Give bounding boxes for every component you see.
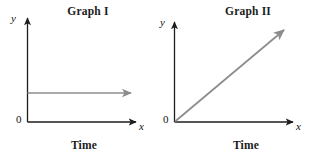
x-axis-caption: Time xyxy=(0,139,158,151)
x-axis-label: x xyxy=(139,120,144,132)
graph-panel-graph-i: Graph I y x 0 Time xyxy=(0,0,158,164)
x-axis-caption: Time xyxy=(158,139,316,151)
origin-label: 0 xyxy=(163,113,169,125)
data-ray-increasing xyxy=(175,30,284,122)
y-axis-label: y xyxy=(11,12,16,24)
origin-label: 0 xyxy=(16,113,22,125)
two-graph-figure: Graph I y x 0 Time Graph II xyxy=(0,0,316,164)
graph-panel-graph-ii: Graph II y x 0 Time xyxy=(158,0,316,164)
y-axis-label: y xyxy=(160,16,165,28)
x-axis-label: x xyxy=(296,120,301,132)
